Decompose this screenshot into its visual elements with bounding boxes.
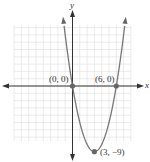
x-axis-right-arrow-icon bbox=[137, 84, 144, 89]
x-axis-left-arrow-icon bbox=[2, 84, 9, 89]
data-point bbox=[92, 149, 97, 154]
data-point bbox=[114, 83, 119, 88]
point-label-origin: (0, 0) bbox=[49, 74, 69, 84]
point-label-vertex: (3, −9) bbox=[100, 147, 125, 157]
y-axis-label: y bbox=[69, 0, 74, 10]
data-point bbox=[70, 83, 75, 88]
y-axis-down-arrow-icon bbox=[70, 154, 75, 161]
y-axis-up-arrow-icon bbox=[70, 10, 75, 17]
x-axis-label: x bbox=[144, 80, 149, 90]
curve-right-arrow-icon bbox=[122, 17, 127, 24]
point-label-6-0: (6, 0) bbox=[95, 74, 115, 84]
curve-left-arrow-icon bbox=[61, 17, 66, 24]
parabola-graph: x y (0, 0) (6, 0) (3, −9) bbox=[0, 0, 150, 162]
